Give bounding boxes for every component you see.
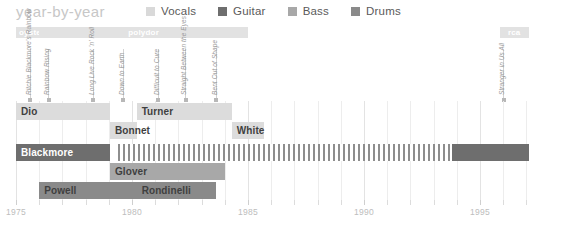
member-name: White [232,125,265,136]
album-title: Difficult to Cure [153,49,160,95]
album-title: Down to Earth [118,53,125,96]
album-title: Rainbow Rising [43,48,50,95]
axis-tick [225,200,226,205]
record-label-band: oysterpolydorrca [0,27,563,38]
axis-tick [364,200,365,205]
axis-label: 1975 [6,207,26,217]
record-label-polydor[interactable]: polydor [39,27,248,38]
axis-label: 1990 [354,207,374,217]
album-title: Straight Between the Eyes [180,16,187,95]
axis-tick [318,200,319,205]
member-bar-turner[interactable]: Turner [137,103,232,120]
legend-label: Drums [366,5,401,17]
legend-item-vocals[interactable]: Vocals [146,5,196,17]
timeline-row-guitar-2: Blackmore [0,144,563,161]
legend-item-drums[interactable]: Drums [351,5,401,17]
album-title: Stranger in Us All [498,43,505,95]
x-axis: 19751980198519901995 [0,200,563,229]
axis-tick [132,200,133,205]
legend-label: Vocals [161,5,196,17]
legend-label: Guitar [233,5,266,17]
square-swatch [218,7,227,16]
axis-label: 1980 [122,207,142,217]
member-name: Rondinelli [137,185,191,196]
axis-tick [480,200,481,205]
legend: VocalsGuitarBassDrums [146,5,423,17]
member-name: Blackmore [16,147,73,158]
member-bar-white[interactable]: White [232,122,264,139]
album-markers: Ritchie Blackmore's RainbowRainbow Risin… [0,39,563,101]
album-title: Ritchie Blackmore's Rainbow [25,8,32,95]
axis-tick [202,200,203,205]
member-name: Powell [39,185,76,196]
axis-tick [503,200,504,205]
axis-tick [457,200,458,205]
member-name: Dio [16,106,37,117]
member-bar-bonnet[interactable]: Bonnet [110,122,137,139]
axis-tick [387,200,388,205]
timeline-plot: DioTurnerBonnetWhiteBlackmoreGloverPowel… [0,101,563,200]
square-swatch [351,7,360,16]
album-title: Long Live Rock 'n' Roll [88,27,95,95]
axis-tick [526,200,527,205]
axis-tick [271,200,272,205]
album-title: Bent Out of Shape [211,40,218,95]
record-label-text: polydor [128,27,159,38]
square-swatch [146,7,155,16]
member-name: Bonnet [110,125,150,136]
record-label-rca[interactable]: rca [500,27,529,38]
axis-tick [155,200,156,205]
record-label-text: rca [508,27,521,38]
member-bar-glover[interactable]: Glover [110,163,225,180]
axis-tick [109,200,110,205]
axis-label: 1995 [470,207,490,217]
member-bar-rondinelli[interactable]: Rondinelli [137,182,216,199]
timeline-row-drums-4: PowellRondinelli [0,182,563,199]
member-bar-dio[interactable]: Dio [16,103,110,120]
timeline-row-vocals-1: BonnetWhite [0,122,563,139]
member-bar-powell[interactable]: Powell [39,182,136,199]
member-bar-blackmore[interactable]: Blackmore [16,144,110,161]
axis-tick [294,200,295,205]
member-name: Turner [137,106,174,117]
member-name: Glover [110,166,147,177]
axis-tick [86,200,87,205]
legend-label: Bass [303,5,329,17]
member-bar-segment[interactable] [118,144,452,161]
legend-item-guitar[interactable]: Guitar [218,5,266,17]
axis-tick [39,200,40,205]
axis-tick [434,200,435,205]
axis-tick [410,200,411,205]
square-swatch [288,7,297,16]
axis-tick [16,200,17,205]
axis-tick [62,200,63,205]
axis-label: 1985 [238,207,258,217]
chart-header: year-by-year VocalsGuitarBassDrums [0,0,563,26]
timeline-row-bass-3: Glover [0,163,563,180]
axis-tick [178,200,179,205]
axis-tick [341,200,342,205]
legend-item-bass[interactable]: Bass [288,5,329,17]
axis-tick [248,200,249,205]
timeline-row-vocals-0: DioTurner [0,103,563,120]
member-bar-segment[interactable] [452,144,529,161]
